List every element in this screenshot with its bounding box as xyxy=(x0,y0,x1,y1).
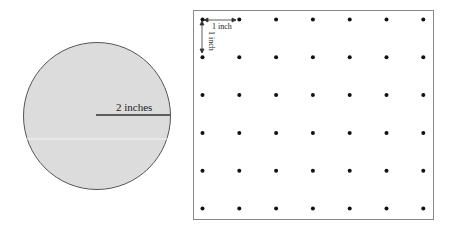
grid-dot xyxy=(201,93,205,97)
grid-dot xyxy=(274,131,278,135)
grid-dot xyxy=(385,55,389,59)
grid-dot xyxy=(385,169,389,173)
grid-border xyxy=(194,11,434,220)
grid-dot xyxy=(348,18,352,22)
grid-dot xyxy=(274,169,278,173)
grid-dot xyxy=(348,207,352,211)
grid-dot xyxy=(274,55,278,59)
grid-dot xyxy=(421,18,425,22)
grid-dot xyxy=(311,169,315,173)
grid-dot xyxy=(274,18,278,22)
grid-dot xyxy=(421,131,425,135)
grid-dot xyxy=(385,18,389,22)
grid-dot xyxy=(201,55,205,59)
diagram-canvas: 2 inches 1 inch 1 inch xyxy=(0,0,452,226)
grid-dot xyxy=(348,93,352,97)
grid-dot xyxy=(274,207,278,211)
grid-dot xyxy=(237,207,241,211)
grid-dot xyxy=(421,207,425,211)
grid-dot xyxy=(311,93,315,97)
radius-label: 2 inches xyxy=(116,101,152,113)
grid-dot xyxy=(201,169,205,173)
grid-dot xyxy=(311,131,315,135)
grid-dot xyxy=(421,93,425,97)
grid-dot xyxy=(348,169,352,173)
grid-dot xyxy=(385,207,389,211)
grid-dot xyxy=(385,93,389,97)
grid-dot xyxy=(237,131,241,135)
vertical-spacing-label: 1 inch xyxy=(207,31,216,51)
grid-dot xyxy=(237,93,241,97)
dot-grid-figure: 1 inch 1 inch xyxy=(194,11,434,220)
grid-dot xyxy=(274,93,278,97)
grid-dot xyxy=(311,55,315,59)
grid-dot xyxy=(311,18,315,22)
circle-figure: 2 inches xyxy=(24,43,171,190)
grid-dot xyxy=(385,131,389,135)
grid-dot xyxy=(348,55,352,59)
grid-dot xyxy=(421,169,425,173)
grid-dot xyxy=(311,207,315,211)
grid-dot xyxy=(201,18,205,22)
horizontal-spacing-label: 1 inch xyxy=(212,22,232,31)
grid-dot xyxy=(201,131,205,135)
grid-dot xyxy=(237,18,241,22)
grid-dot xyxy=(201,207,205,211)
grid-dot xyxy=(421,55,425,59)
grid-dot xyxy=(237,55,241,59)
grid-dot xyxy=(237,169,241,173)
grid-dot xyxy=(348,131,352,135)
